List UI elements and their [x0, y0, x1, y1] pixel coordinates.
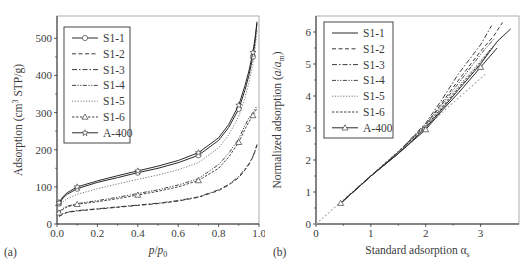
- legend-entry-label: S1-1: [363, 27, 385, 39]
- legend-entry-label: S1-5: [103, 95, 125, 107]
- series-line-s1-3: [59, 145, 257, 216]
- legend-entry-label: S1-2: [363, 43, 385, 55]
- panel-label: (b): [273, 246, 287, 259]
- y-tick-label: 6: [306, 26, 312, 38]
- legend-entry-label: S1-6: [103, 111, 125, 123]
- legend-entry-label: A-400: [363, 122, 393, 134]
- x-tick-label: 2: [423, 227, 429, 239]
- x-tick-label: 0.8: [212, 227, 226, 239]
- series-line-s1-2: [59, 144, 257, 217]
- y-tick-label: 1: [306, 186, 312, 198]
- y-tick-label: 200: [36, 144, 53, 156]
- legend-entry-label: S1-4: [363, 74, 385, 86]
- legend-entry-label: S1-6: [363, 106, 385, 118]
- isotherm-chart: 0.00.20.40.60.81.00100200300400500S1-1S1…: [0, 0, 265, 274]
- legend-entry-label: S1-1: [103, 32, 125, 44]
- y-tick-label: 500: [36, 32, 53, 44]
- x-tick-label: 1.0: [252, 227, 265, 239]
- y-tick-label: 100: [36, 181, 53, 193]
- legend-entry-label: S1-3: [363, 59, 385, 71]
- x-axis-label: Standard adsorption αs: [365, 244, 469, 259]
- x-tick-label: 0: [313, 227, 319, 239]
- y-tick-label: 2: [306, 154, 312, 166]
- y-tick-label: 0: [306, 218, 312, 230]
- y-tick-label: 400: [36, 69, 53, 81]
- legend-entry-label: S1-5: [363, 90, 385, 102]
- y-tick-label: 300: [36, 107, 53, 119]
- legend-entry-label: S1-4: [103, 79, 125, 91]
- x-tick-label: 0.2: [91, 227, 105, 239]
- legend-entry-label: A-400: [103, 127, 133, 139]
- chart-panel-b: 01230123456S1-1S1-2S1-3S1-4S1-5S1-6A-400…: [265, 0, 530, 274]
- y-tick-label: 0: [47, 218, 53, 230]
- y-axis-label: Adsorption (cm3 STP/g): [11, 64, 25, 176]
- panel-label: (a): [4, 246, 17, 259]
- x-tick-label: 0.4: [131, 227, 145, 239]
- chart-panel-a: 0.00.20.40.60.81.00100200300400500S1-1S1…: [0, 0, 265, 274]
- x-tick-label: 0.6: [171, 227, 185, 239]
- x-tick-label: 0.0: [50, 227, 64, 239]
- y-tick-label: 5: [306, 58, 312, 70]
- x-tick-label: 1: [368, 227, 374, 239]
- y-tick-label: 3: [306, 122, 312, 134]
- x-axis-label: p/p0: [148, 244, 168, 259]
- alpha-s-plot-chart: 01230123456S1-1S1-2S1-3S1-4S1-5S1-6A-400…: [265, 0, 530, 274]
- legend-entry-label: S1-3: [103, 64, 125, 76]
- x-tick-label: 3: [478, 227, 484, 239]
- y-axis-label: Normalized adsorption (a/am): [271, 51, 286, 188]
- y-tick-label: 4: [306, 90, 312, 102]
- legend-entry-label: S1-2: [103, 48, 125, 60]
